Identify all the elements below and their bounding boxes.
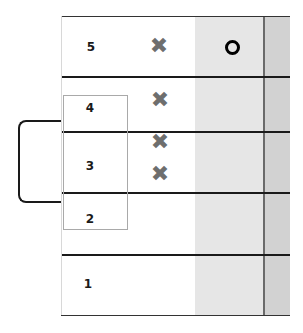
row-divider xyxy=(61,76,290,78)
circle-marker-icon xyxy=(225,40,240,55)
row-label-3: 3 xyxy=(80,159,100,173)
x-mark-icon: ✖ xyxy=(148,131,172,153)
row-label-5: 5 xyxy=(81,40,101,54)
row-label-2: 2 xyxy=(80,212,100,226)
bracket-connector xyxy=(18,120,61,203)
top-border xyxy=(61,16,290,17)
row-label-4: 4 xyxy=(80,101,100,115)
bottom-border xyxy=(61,315,290,316)
x-mark-icon: ✖ xyxy=(148,89,172,111)
row-label-1: 1 xyxy=(78,277,98,291)
left-border xyxy=(61,16,62,315)
shaded-column xyxy=(195,16,263,315)
x-mark-icon: ✖ xyxy=(147,35,171,57)
shaded-column-dark xyxy=(264,16,290,315)
row-divider xyxy=(61,254,290,256)
vertical-divider xyxy=(263,16,265,315)
x-mark-icon: ✖ xyxy=(148,163,172,185)
